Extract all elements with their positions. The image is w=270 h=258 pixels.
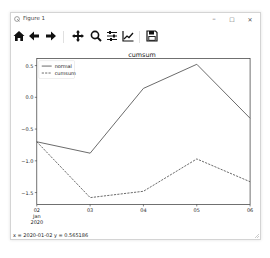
chart-title: cumsum bbox=[128, 51, 156, 59]
arrow-left-icon bbox=[27, 29, 41, 43]
back-button[interactable] bbox=[27, 29, 41, 43]
maximize-button[interactable]: ☐ bbox=[225, 14, 239, 25]
y-tick-label: −1.5 bbox=[21, 190, 33, 196]
home-icon bbox=[12, 29, 26, 43]
matplotlib-app-icon bbox=[14, 16, 20, 22]
x-tick-label: 06 bbox=[247, 207, 253, 213]
save-button[interactable] bbox=[145, 29, 159, 43]
status-bar-coordinates: x = 2020-01-02 y = 0.565186 bbox=[13, 232, 88, 238]
navigation-toolbar bbox=[11, 27, 260, 47]
y-tick-label: 0.0 bbox=[25, 94, 33, 100]
magnifier-icon bbox=[89, 29, 103, 43]
y-tick-label: −1.0 bbox=[21, 158, 33, 164]
window-title: Figure 1 bbox=[23, 15, 45, 21]
toolbar-separator bbox=[63, 31, 64, 43]
close-button[interactable]: ✕ bbox=[243, 14, 257, 25]
title-bar[interactable]: Figure 1 – ☐ ✕ bbox=[11, 13, 260, 27]
figure-window: Figure 1 – ☐ ✕ cumsum bbox=[10, 12, 261, 240]
axes: 0.50.0−0.5−1.0−1.502Jan202003040506 bbox=[21, 59, 253, 226]
sliders-icon bbox=[105, 29, 119, 43]
x-tick-label: 05 bbox=[194, 207, 200, 213]
resize-grip-icon[interactable] bbox=[255, 234, 259, 238]
plot-frame bbox=[37, 59, 250, 205]
zoom-button[interactable] bbox=[89, 29, 103, 43]
x-tick-label: 2020 bbox=[30, 219, 43, 225]
legend: normalcumsum bbox=[39, 61, 76, 79]
minimize-button[interactable]: – bbox=[207, 14, 221, 25]
x-tick-label: 03 bbox=[87, 207, 93, 213]
forward-button[interactable] bbox=[44, 29, 58, 43]
line-chart-icon bbox=[121, 29, 135, 43]
pan-button[interactable] bbox=[71, 29, 85, 43]
floppy-disk-icon bbox=[145, 29, 159, 43]
y-tick-label: 0.5 bbox=[25, 63, 33, 69]
series-line-cumsum bbox=[37, 142, 250, 198]
arrow-right-icon bbox=[44, 29, 58, 43]
configure-subplots-button[interactable] bbox=[105, 29, 119, 43]
legend-label-normal: normal bbox=[55, 63, 72, 69]
legend-label-cumsum: cumsum bbox=[55, 70, 76, 76]
x-tick-label: 04 bbox=[140, 207, 146, 213]
plot-canvas[interactable]: cumsum 0.50.0−0.5−1.0−1.502Jan2020030405… bbox=[11, 47, 260, 229]
edit-axis-button[interactable] bbox=[121, 29, 135, 43]
home-button[interactable] bbox=[12, 29, 26, 43]
move-icon bbox=[71, 29, 85, 43]
data-lines bbox=[37, 64, 250, 197]
toolbar-separator bbox=[139, 31, 140, 43]
y-tick-label: −0.5 bbox=[21, 126, 33, 132]
